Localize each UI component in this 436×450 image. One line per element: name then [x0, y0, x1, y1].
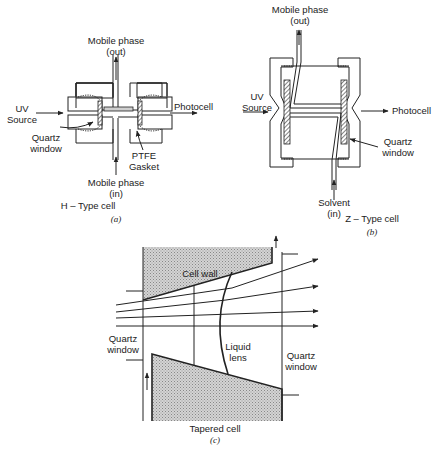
h-window-pointer: [60, 122, 93, 128]
panel-b-z-type-cell: Mobile phase (out) UV Source Photocell Q…: [242, 4, 431, 237]
h-left-lower-block: [68, 115, 102, 129]
left-window-label-2: window: [106, 344, 139, 355]
h-outlet-label-2: (out): [106, 46, 126, 57]
liquid-lens-label-2: lens: [229, 352, 247, 363]
z-inlet-label-2: (in): [327, 208, 341, 219]
h-gasket-label-1: PTFE: [132, 150, 156, 161]
panel-a-caption: (a): [111, 214, 122, 224]
h-right-lower-block: [138, 115, 172, 129]
h-gasket-label-2: Gasket: [129, 161, 159, 172]
h-threads: [78, 95, 162, 131]
h-window-label-2: window: [29, 143, 62, 154]
z-photocell-label: Photocell: [392, 105, 431, 116]
z-inlet-label-1: Solvent: [318, 197, 350, 208]
panel-a-h-type-cell: Mobile phase (out) UV Source Photocell Q…: [7, 35, 213, 224]
light-ray-3: [116, 311, 318, 318]
h-quartz-window-left: [98, 101, 102, 125]
z-flow-channel: [290, 30, 342, 190]
h-cell-title: H – Type cell: [61, 200, 116, 211]
h-gasket-pointer: [137, 131, 143, 150]
h-outlet-label-1: Mobile phase: [88, 35, 145, 46]
z-outlet-label-2: (out): [290, 15, 310, 26]
z-outlet-label-1: Mobile phase: [272, 4, 329, 15]
h-ptfe-gasket-bar: [104, 107, 133, 111]
h-source-label-2: Source: [7, 114, 37, 125]
h-cell-upper-body: [76, 83, 167, 98]
light-ray-2a: [116, 300, 226, 312]
z-window-label-1: Quartz: [384, 136, 413, 147]
z-source-label-2: Source: [242, 102, 272, 113]
panel-c-tapered-cell: Cell wall Quartz window Liquid lens Quar…: [106, 236, 318, 445]
h-window-label-1: Quartz: [32, 132, 61, 143]
h-cell-top-housing: [76, 98, 167, 108]
z-quartz-window-right: [341, 80, 347, 144]
h-photocell-label: Photocell: [174, 101, 213, 112]
h-cell-frame: [76, 83, 162, 143]
left-window-label-1: Quartz: [109, 333, 138, 344]
z-window-label-2: window: [381, 147, 414, 158]
z-window-pointer: [350, 139, 378, 147]
cell-wall-label: Cell wall: [182, 268, 217, 279]
right-window-label-2: window: [284, 361, 317, 372]
h-source-label-1: UV: [15, 103, 29, 114]
right-window-label-1: Quartz: [287, 350, 316, 361]
flow-cell-diagram: Mobile phase (out) UV Source Photocell Q…: [0, 0, 436, 450]
z-cell-title: Z – Type cell: [345, 213, 399, 224]
liquid-lens-label-1: Liquid: [225, 341, 250, 352]
h-left-upper-block: [68, 97, 102, 111]
h-inlet-label-2: (in): [109, 188, 123, 199]
panel-b-caption: (b): [367, 227, 378, 237]
tapered-cell-title: Tapered cell: [189, 423, 240, 434]
z-source-label-1: UV: [250, 91, 264, 102]
panel-c-caption: (c): [210, 435, 220, 445]
h-inlet-label-1: Mobile phase: [88, 177, 145, 188]
z-quartz-window-left: [284, 80, 290, 144]
light-ray-2b: [226, 286, 318, 300]
h-quartz-window-right: [138, 101, 142, 125]
h-cell-frame-top: [76, 83, 167, 96]
tapered-lower-wall: [152, 354, 282, 421]
